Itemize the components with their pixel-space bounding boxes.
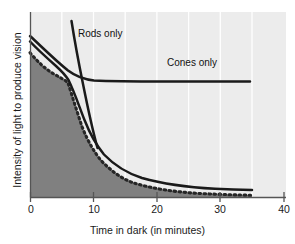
x-tick-label-40: 40 [269, 203, 295, 215]
series-label-cones-only: Cones only [167, 57, 217, 68]
y-axis-title: Intensity of light to produce vision [11, 10, 23, 210]
x-tick-label-30: 30 [205, 203, 235, 215]
x-tick-label-10: 10 [79, 203, 109, 215]
series-label-rods-only: Rods only [78, 28, 122, 39]
x-axis-title: Time in dark (in minutes) [0, 224, 295, 236]
dark-adaptation-chart: 0 10 20 30 40 Time in dark (in minutes) … [0, 0, 295, 244]
x-tick-label-20: 20 [142, 203, 172, 215]
